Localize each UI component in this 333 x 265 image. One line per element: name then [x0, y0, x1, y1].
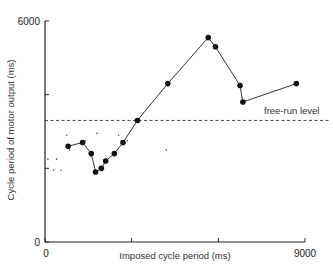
scatter-dot [60, 169, 62, 171]
data-point [99, 166, 105, 172]
data-point [135, 118, 141, 124]
data-point [80, 140, 86, 146]
data-point [240, 99, 246, 105]
data-point [103, 158, 109, 164]
data-point [165, 81, 171, 87]
scatter-dot [56, 158, 58, 160]
data-point [65, 143, 71, 149]
axes [45, 21, 305, 242]
data-point [237, 83, 243, 89]
data-point [93, 169, 99, 175]
data-point [294, 81, 300, 87]
data-point [88, 151, 94, 157]
y-axis-label: Cycle period of motor output (ms) [5, 60, 16, 201]
data-point [112, 151, 118, 157]
scatter-dot [69, 149, 71, 151]
chart: 6000 0 0 9000 Imposed cycle period (ms) … [0, 0, 333, 265]
scatter-dot [53, 169, 55, 171]
y-tick-label-min: 0 [34, 237, 40, 248]
scatter-dot [166, 149, 168, 151]
scatter-dot [47, 158, 49, 160]
scatter-dots [47, 133, 167, 171]
scatter-dot [66, 134, 68, 136]
x-axis-label: Imposed cycle period (ms) [119, 250, 230, 261]
scatter-dot [96, 133, 98, 135]
data-point [205, 35, 211, 41]
x-tick-label-min: 0 [43, 248, 49, 259]
scatter-dot [118, 134, 120, 136]
x-tick-label-max: 9000 [294, 248, 317, 259]
y-tick-label-max: 6000 [18, 16, 41, 27]
free-run-level-label: free-run level [264, 105, 319, 116]
motor-output-line [68, 38, 296, 172]
data-point [120, 140, 126, 146]
data-point [213, 44, 219, 50]
scatter-dot [127, 140, 129, 142]
